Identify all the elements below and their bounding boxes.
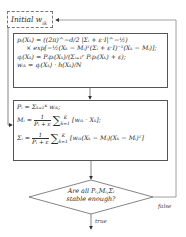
pdf-equation: pᵢ(Xₖ) = ((2π)^−d/2 |Σᵢ + ε·I|^−½) [17, 36, 164, 44]
true-edge-label: true [95, 218, 107, 224]
cov-lhs: Σᵢ = [17, 134, 30, 141]
mean-lhs: Mᵢ = [17, 116, 32, 123]
frac-den: Pᵢ + ε [32, 139, 49, 145]
mean-fraction: 1Pᵢ + ε [34, 114, 51, 127]
weight-equation: wᵢₖ = qᵢ(Xₖ) · h(Xₖ)/N [17, 61, 164, 69]
frac-num: 1 [32, 132, 49, 139]
cov-rhs: [wᵢₖ(Xₖ − Mᵢ)(Xₖ − Mᵢ)ᵀ] [70, 134, 144, 141]
frac-den: Pᵢ + ε [34, 121, 51, 127]
pdf-exp-term: × exp[−½(Xₖ − Mᵢ)ᵀ(Σᵢ + ε·I)⁻¹(Xₖ − Mᵢ)]… [17, 44, 164, 52]
sum-symbol: ∑ [51, 132, 59, 145]
sum-bot: k=1 [61, 121, 70, 127]
false-edge-label: false [158, 203, 171, 209]
frac-num: 1 [34, 114, 51, 121]
sum-limits: Kk=1 [61, 115, 70, 127]
sum-bot: k=1 [59, 139, 68, 145]
m-step-box: Pᵢ = Σₖ₌₁ᴷ wᵢₖ; Mᵢ = 1Pᵢ + ε ∑Kk=1 [wᵢₖ … [13, 100, 168, 161]
decision-text: Are all Pᵢ,Mᵢ,Σᵢ stable enough? [55, 187, 127, 203]
initial-label: Initial w [11, 15, 42, 24]
mean-equation: Mᵢ = 1Pᵢ + ε ∑Kk=1 [wᵢₖ · Xₖ]; [17, 111, 164, 129]
sum-limits: Kk=1 [59, 133, 68, 145]
covariance-equation: Σᵢ = 1Pᵢ + ε ∑Kk=1 [wᵢₖ(Xₖ − Mᵢ)(Xₖ − Mᵢ… [17, 129, 164, 147]
mean-rhs: [wᵢₖ · Xₖ]; [72, 116, 101, 123]
cov-fraction: 1Pᵢ + ε [32, 132, 49, 145]
prior-equation: Pᵢ = Σₖ₌₁ᴷ wᵢₖ; [17, 103, 164, 111]
posterior-equation: qᵢ(Xₖ) = Pᵢpᵢ(Xₖ)/(Σᵢ₌₁ᶜ Pᵢpᵢ(Xₖ) + ε); [17, 53, 164, 61]
initial-subscript: ik [42, 20, 47, 26]
decision-line-2: stable enough? [55, 195, 127, 203]
decision-line-1: Are all Pᵢ,Mᵢ,Σᵢ [55, 187, 127, 195]
initial-weights-node: Initial wik [7, 11, 53, 28]
e-step-box: pᵢ(Xₖ) = ((2π)^−d/2 |Σᵢ + ε·I|^−½) × exp… [13, 33, 168, 88]
sum-symbol: ∑ [53, 114, 61, 127]
